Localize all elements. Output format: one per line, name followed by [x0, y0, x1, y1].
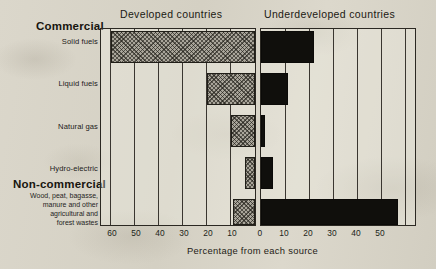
gridline-right-30: [333, 29, 334, 225]
category-label-non-commercial-detail: Wood, peat, bagasse, manure and other ag…: [12, 192, 98, 228]
bar-underdeveloped-non-commercial: [261, 199, 398, 225]
panel-title-underdeveloped: Underdeveloped countries: [264, 9, 395, 21]
gridline-right-40: [357, 29, 358, 225]
tick-label-left-50: 50: [126, 229, 146, 238]
tick-label-left-60: 60: [102, 229, 122, 238]
bar-developed-non-commercial: [233, 199, 255, 225]
tick-label-right-50: 50: [370, 229, 390, 238]
tick-label-right-40: 40: [346, 229, 366, 238]
panel-title-developed: Developed countries: [120, 9, 222, 21]
plot-area-developed: [100, 28, 256, 226]
category-label-natural-gas: Natural gas: [20, 123, 98, 132]
bar-developed-liquid-fuels: [207, 73, 255, 105]
bar-underdeveloped-natural-gas: [261, 115, 265, 147]
tick-label-left-30: 30: [174, 229, 194, 238]
bar-underdeveloped-liquid-fuels: [261, 73, 288, 105]
tick-label-left-40: 40: [150, 229, 170, 238]
tick-label-left-20: 20: [198, 229, 218, 238]
bar-underdeveloped-hydro-electric: [261, 157, 273, 189]
tick-label-right-0: 0: [250, 229, 270, 238]
group-header-non-commercial: Non-commercial: [13, 178, 106, 191]
gridline-right-50: [381, 29, 382, 225]
bar-developed-solid-fuels: [111, 31, 255, 63]
tick-label-right-10: 10: [274, 229, 294, 238]
bar-developed-hydro-electric: [245, 157, 255, 189]
energy-source-bar-chart: Developed countries Underdeveloped count…: [0, 0, 436, 269]
tick-label-left-10: 10: [222, 229, 242, 238]
category-label-hydro-electric: Hydro-electric: [20, 165, 98, 174]
gridline-right-60: [405, 29, 406, 225]
category-label-solid-fuels: Solid fuels: [20, 38, 98, 47]
tick-label-right-30: 30: [322, 229, 342, 238]
x-axis-title: Percentage from each source: [187, 246, 318, 257]
plot-area-underdeveloped: [260, 28, 416, 226]
category-label-liquid-fuels: Liquid fuels: [20, 80, 98, 89]
tick-label-right-20: 20: [298, 229, 318, 238]
group-header-commercial: Commercial: [36, 20, 104, 33]
bar-underdeveloped-solid-fuels: [261, 31, 314, 63]
bar-developed-natural-gas: [231, 115, 255, 147]
